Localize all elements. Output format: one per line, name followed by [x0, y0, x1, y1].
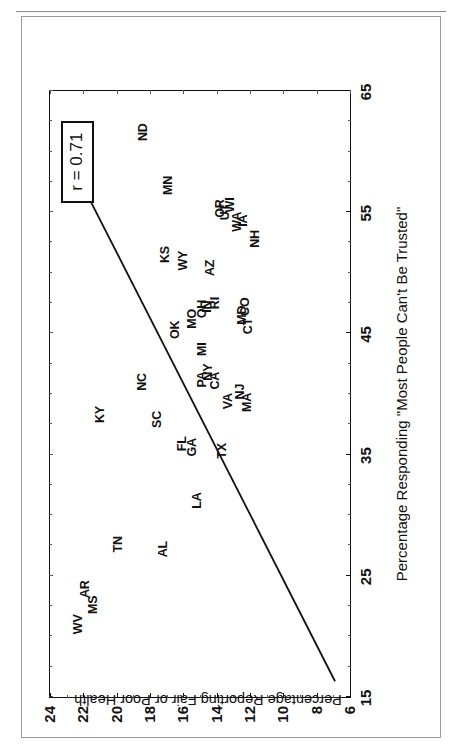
- x-tick-top: [49, 454, 53, 455]
- page-header-rule: [16, 11, 446, 12]
- x-tick-top-minor: [49, 635, 52, 636]
- x-tick-minor: [348, 635, 351, 636]
- y-tick-label: 20: [107, 706, 124, 732]
- y-tick-right: [250, 90, 251, 94]
- data-point-label-nc: NC: [135, 373, 149, 391]
- x-tick-minor: [348, 605, 351, 606]
- data-point-label-ri: RI: [208, 297, 222, 309]
- y-tick-right: [117, 90, 118, 94]
- x-tick-top-minor: [49, 423, 52, 424]
- y-tick-label: 14: [207, 706, 224, 732]
- data-point-label-wy: WY: [176, 251, 190, 271]
- x-axis-title: Percentage Responding "Most People Can't…: [393, 207, 410, 582]
- data-point-label-pa: PA: [195, 371, 209, 387]
- y-tick-right: [283, 90, 284, 94]
- y-tick-right: [83, 90, 84, 94]
- x-tick-label: 45: [357, 326, 374, 343]
- data-point-label-ma: MA: [240, 393, 254, 412]
- scatter-chart: WVMSARTNALLAKYSCNCGAFLTXVAOKMOINRIOHAZMI…: [21, 16, 441, 738]
- data-point-label-fl: FL: [175, 436, 189, 451]
- data-point-label-az: AZ: [203, 260, 217, 276]
- data-point-label-mi: MI: [195, 342, 209, 356]
- x-tick-top-minor: [49, 393, 52, 394]
- data-point-label-ca: CA: [208, 372, 222, 390]
- y-tick-label: 18: [141, 706, 158, 732]
- x-tick-top-minor: [49, 363, 52, 364]
- data-point-label-wv: WV: [71, 614, 85, 634]
- y-tick-right: [317, 90, 318, 94]
- data-point-label-nd: ND: [136, 123, 150, 141]
- data-point-label-ky: KY: [93, 406, 107, 423]
- x-tick-minor: [348, 423, 351, 424]
- x-tick-top-minor: [49, 545, 52, 546]
- y-tick-right: [50, 90, 51, 94]
- data-point-label-oh: OH: [195, 300, 209, 318]
- x-tick: [346, 575, 351, 576]
- x-tick-top-minor: [49, 120, 52, 121]
- x-tick-top-minor: [49, 272, 52, 273]
- x-tick-label: 55: [357, 205, 374, 222]
- x-tick-top-minor: [49, 242, 52, 243]
- x-tick-top-minor: [49, 666, 52, 667]
- y-tick-label: 16: [174, 706, 191, 732]
- x-tick-label: 15: [357, 690, 374, 707]
- y-tick-label: 6: [341, 706, 358, 732]
- x-tick-label: 35: [357, 447, 374, 464]
- x-tick-minor: [348, 393, 351, 394]
- data-point-label-tn: TN: [111, 536, 125, 552]
- y-tick-right: [150, 90, 151, 94]
- x-tick: [346, 454, 351, 455]
- data-point-label-al: AL: [156, 541, 170, 557]
- data-point-label-ar: AR: [78, 580, 92, 598]
- data-point-label-la: LA: [190, 493, 204, 509]
- x-tick: [346, 332, 351, 333]
- x-tick-top: [49, 575, 53, 576]
- x-tick-minor: [348, 120, 351, 121]
- data-point-label-ia: IA: [236, 215, 250, 227]
- data-point-label-mn: MN: [161, 176, 175, 195]
- x-tick-top-minor: [49, 514, 52, 515]
- data-point-label-ok: OK: [168, 321, 182, 339]
- data-point-label-ms: MS: [86, 596, 100, 614]
- data-point-label-nh: NH: [248, 230, 262, 248]
- x-tick-top-minor: [49, 181, 52, 182]
- x-tick-minor: [348, 484, 351, 485]
- x-tick-label: 25: [357, 568, 374, 585]
- correlation-box: r = 0.71: [61, 121, 94, 203]
- y-tick: [50, 693, 51, 698]
- data-point-label-sc: SC: [150, 411, 164, 428]
- y-tick-right: [217, 90, 218, 94]
- x-tick-minor: [348, 514, 351, 515]
- x-tick-label: 65: [357, 84, 374, 101]
- data-point-label-ks: KS: [158, 246, 172, 263]
- y-tick-label: 24: [41, 706, 58, 732]
- x-tick-top-minor: [49, 302, 52, 303]
- y-tick-label: 12: [241, 706, 258, 732]
- x-tick: [346, 211, 351, 212]
- x-tick-top: [49, 332, 53, 333]
- x-tick-minor: [348, 272, 351, 273]
- x-tick-top-minor: [49, 151, 52, 152]
- x-tick-top-minor: [49, 605, 52, 606]
- x-tick-minor: [348, 666, 351, 667]
- page-header: [0, 0, 462, 14]
- data-point-label-tx: TX: [215, 443, 229, 459]
- y-tick-minor: [67, 695, 68, 698]
- y-tick-right: [183, 90, 184, 94]
- y-tick: [350, 693, 351, 698]
- y-tick-label: 22: [74, 706, 91, 732]
- y-tick-label: 8: [307, 706, 324, 732]
- x-tick-minor: [348, 302, 351, 303]
- x-tick-top: [49, 211, 53, 212]
- y-tick-right: [350, 90, 351, 94]
- y-tick-label: 10: [274, 706, 291, 732]
- x-tick-minor: [348, 181, 351, 182]
- x-tick-top-minor: [49, 484, 52, 485]
- x-tick-minor: [348, 242, 351, 243]
- data-point-label-ct: CT: [241, 318, 255, 334]
- x-tick-minor: [348, 151, 351, 152]
- x-tick-minor: [348, 545, 351, 546]
- x-tick-minor: [348, 363, 351, 364]
